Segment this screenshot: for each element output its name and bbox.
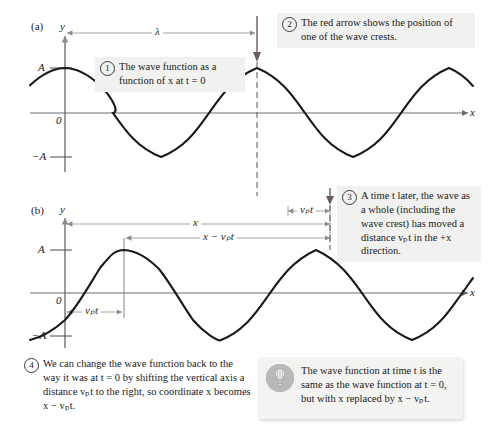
panel-b-negative-amplitude-label: −A — [32, 329, 46, 341]
panel-b-origin-label: 0 — [56, 294, 62, 306]
panel-b-x-axis-label: x — [470, 286, 475, 298]
panel-a-negative-amplitude-label: −A — [32, 150, 46, 162]
panel-a-origin-label: 0 — [56, 114, 62, 126]
callout-4-text: We can change the wave function back to … — [43, 357, 252, 412]
panel-b-y-axis-label: y — [60, 203, 65, 215]
x-distance-label: x — [190, 216, 201, 228]
panel-b-shift-arrowhead — [326, 196, 334, 205]
lightbulb-icon-glyph — [266, 364, 294, 392]
callout-1-badge: 1 — [100, 61, 115, 76]
callout-4: 4 We can change the wave function back t… — [24, 357, 252, 412]
vpt-right-label: vₚt — [297, 203, 316, 216]
callout-2-badge: 2 — [282, 17, 297, 32]
callout-3-text: A time t later, the wave as a whole (inc… — [361, 189, 476, 258]
panel-b-amplitude-label: A — [38, 243, 45, 255]
panel-a-amplitude-label: A — [38, 61, 45, 73]
callout-2-text: The red arrow shows the position of one … — [301, 16, 470, 44]
x-minus-vpt-label: x − vₚt — [200, 230, 237, 243]
lightbulb-icon — [266, 364, 294, 392]
wavelength-label: λ — [152, 25, 163, 37]
panel-b-wave-curve — [30, 250, 473, 341]
callout-2: 2 The red arrow shows the position of on… — [277, 13, 475, 48]
panel-a-y-axis-label: y — [60, 20, 65, 32]
crest-indicator-arrowhead — [253, 52, 261, 62]
callout-3: 3 A time t later, the wave as a whole (i… — [337, 186, 481, 262]
callout-1: 1 The wave function as a function of x a… — [95, 57, 245, 92]
wave-function-figure: (a) (b) y x A −A 0 λ y x A −A 0 x x − vₚ… — [0, 0, 489, 440]
panel-a-label: (a) — [31, 20, 43, 32]
panel-b-label: (b) — [31, 204, 44, 216]
tip-text: The wave function at time t is the same … — [301, 364, 455, 406]
callout-4-badge: 4 — [24, 358, 39, 373]
tip-box: The wave function at time t is the same … — [258, 357, 463, 419]
vpt-left-label: vₚt — [82, 304, 101, 317]
callout-3-badge: 3 — [342, 190, 357, 205]
callout-1-text: The wave function as a function of x at … — [119, 60, 240, 88]
panel-a-x-axis-label: x — [470, 106, 475, 118]
